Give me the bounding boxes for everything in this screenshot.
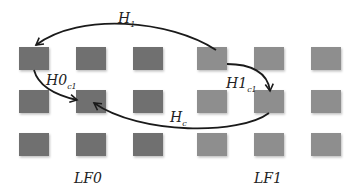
- lf1-square-r0c1: [254, 47, 284, 70]
- lf1-square-r2c0: [197, 133, 227, 156]
- arrow-h1: [36, 24, 216, 50]
- lf0-square-r0c0: [19, 47, 49, 70]
- lf0-square-r2c1: [76, 133, 106, 156]
- label-h1c1: H1c1: [225, 75, 257, 94]
- lf1-square-r1c2: [311, 90, 341, 113]
- label-h0c1: H0c1: [45, 72, 77, 91]
- square-grid: [19, 47, 341, 156]
- group-label-lf1: LF1: [253, 170, 282, 186]
- lf1-square-r1c1: [254, 90, 284, 113]
- lf0-square-r1c1: [76, 90, 106, 113]
- diagram-canvas: H1 H0c1 H1c1 Hc LF0 LF1: [0, 0, 361, 191]
- lf1-square-r1c0: [197, 90, 227, 113]
- lf0-square-r2c2: [133, 133, 163, 156]
- lf1-square-r0c0: [197, 47, 227, 70]
- lf1-square-r2c2: [311, 133, 341, 156]
- lf0-square-r2c0: [19, 133, 49, 156]
- lf1-square-r0c2: [311, 47, 341, 70]
- label-hc: Hc: [169, 109, 187, 128]
- lf1-square-r2c1: [254, 133, 284, 156]
- group-label-lf0: LF0: [73, 170, 102, 186]
- label-h1: H1: [117, 10, 135, 29]
- lf0-square-r1c2: [133, 90, 163, 113]
- lf0-square-r0c1: [76, 47, 106, 70]
- lf0-square-r0c2: [133, 47, 163, 70]
- lf0-square-r1c0: [19, 90, 49, 113]
